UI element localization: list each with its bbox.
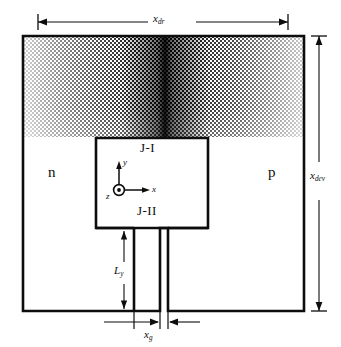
label-device-height: xdev (310, 170, 325, 183)
x-axis-arrowhead (142, 187, 150, 193)
coordinate-axes (114, 161, 150, 195)
junction-label-j1: J-I (140, 141, 155, 154)
label-channel-length: Ly (114, 265, 123, 278)
depletion-region-shading (23, 36, 304, 139)
label-gap-width: xg (144, 329, 153, 342)
region-label-p: p (268, 165, 276, 180)
axis-label-y: y (123, 158, 127, 167)
axis-label-z: z (106, 192, 110, 201)
axis-label-x: x (152, 185, 156, 194)
device-cross-section-figure: xdr xdev n p J-I J-II y x z Ly xg (0, 0, 341, 347)
y-axis-arrowhead (116, 161, 122, 169)
z-axis-out-of-page-icon (114, 185, 125, 196)
dimension-gap-width (104, 311, 200, 329)
region-label-n: n (48, 165, 56, 180)
label-device-width: xdr (153, 13, 164, 26)
junction-label-j2: J-II (137, 204, 157, 217)
